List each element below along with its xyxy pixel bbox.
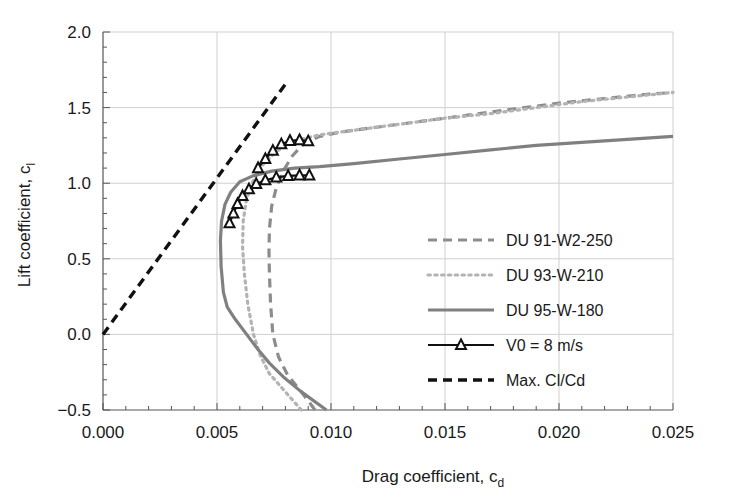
y-axis-title-main: Lift coefficient, c (15, 165, 34, 287)
x-tick-label: 0.025 (652, 423, 695, 442)
legend-label: DU 95-W-180 (506, 302, 604, 319)
legend-label: V0 = 8 m/s (506, 337, 583, 354)
y-tick-label: −0.5 (57, 401, 91, 420)
x-tick-label: 0.015 (424, 423, 467, 442)
y-tick-label: 0.5 (67, 250, 91, 269)
y-axis-title-subscript: l (24, 163, 38, 166)
legend-label: DU 91-W2-250 (506, 232, 613, 249)
x-tick-label: 0.000 (82, 423, 125, 442)
y-tick-label: 2.0 (67, 23, 91, 42)
y-tick-label: 0.0 (67, 325, 91, 344)
x-tick-label: 0.020 (538, 423, 581, 442)
x-axis-title-subscript: d (498, 476, 505, 490)
chart-figure: 0.0000.0050.0100.0150.0200.025 −0.50.00.… (0, 0, 729, 502)
x-axis-title-main: Drag coefficient, c (362, 467, 498, 486)
legend-label: Max. Cl/Cd (506, 372, 585, 389)
y-tick-label: 1.5 (67, 99, 91, 118)
legend-label: DU 93-W-210 (506, 267, 604, 284)
drag-polar-chart: 0.0000.0050.0100.0150.0200.025 −0.50.00.… (0, 0, 729, 502)
x-tick-label: 0.005 (196, 423, 239, 442)
y-tick-label: 1.0 (67, 174, 91, 193)
x-tick-label: 0.010 (310, 423, 353, 442)
